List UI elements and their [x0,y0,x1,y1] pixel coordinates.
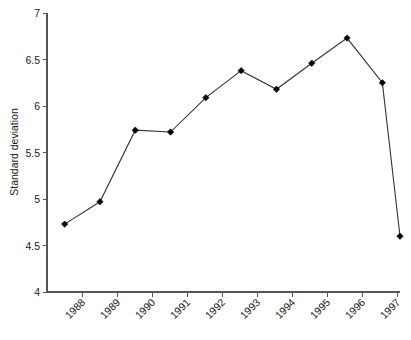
x-tick-label: 1990 [132,296,157,321]
chart-container: Standard deviation 7 6.5 6 5.5 5 4.5 4 [0,0,411,340]
x-tick-label: 1996 [342,296,367,321]
y-tick-label: 7 [34,7,40,19]
x-tick-label: 1989 [97,296,122,321]
data-point-marker [397,233,403,239]
x-tick-label: 1997 [377,296,402,321]
x-axis-tick-marks [82,292,397,297]
y-axis-title: Standard deviation [8,108,20,196]
y-tick-label: 5.5 [25,147,40,159]
data-point-marker [97,199,103,205]
y-axis-tick-marks [43,13,47,292]
y-tick-label: 4 [34,286,40,298]
x-tick-label: 1988 [62,296,87,321]
y-tick-label: 5 [34,193,40,205]
data-series-line [65,38,400,236]
y-tick-label: 4.5 [25,240,40,252]
data-point-markers [61,35,403,239]
line-chart: Standard deviation 7 6.5 6 5.5 5 4.5 4 [0,0,411,340]
y-tick-label: 6 [34,100,40,112]
y-axis-ticks: 7 6.5 6 5.5 5 4.5 4 [25,7,40,298]
x-tick-label: 1992 [202,296,227,321]
data-point-marker [61,221,67,227]
x-tick-label: 1993 [237,296,262,321]
x-tick-label: 1991 [167,296,192,321]
x-tick-label: 1995 [307,296,332,321]
x-tick-label: 1994 [272,296,297,321]
y-tick-label: 6.5 [25,54,40,66]
x-axis-ticks: 1988 1989 1990 1991 1992 1993 1994 1995 … [62,296,402,321]
data-point-marker [132,127,138,133]
